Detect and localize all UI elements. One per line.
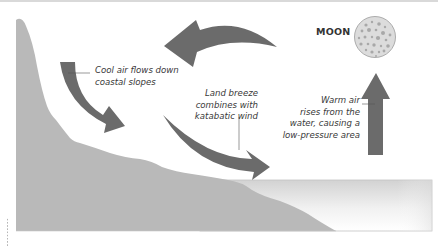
- katabatic-wind-diagram: MOON Cool air flows down coastal slopes …: [0, 0, 438, 246]
- moon-label: MOON: [316, 26, 350, 37]
- return-flow-arrow: [164, 20, 277, 67]
- warm-air-label-line-1: Warm air: [270, 95, 360, 107]
- moon-icon: [355, 17, 396, 58]
- cool-air-label-line-2: coastal slopes: [95, 77, 179, 89]
- margin-dotted-rule: [6, 218, 9, 246]
- rising-warm-air-arrow: [361, 73, 390, 155]
- warm-air-label: Warm air rises from the water, causing a…: [270, 95, 360, 141]
- warm-air-label-line-3: water, causing a: [270, 118, 360, 130]
- warm-air-label-line-4: low-pressure area: [270, 130, 360, 142]
- warm-air-label-line-2: rises from the: [270, 107, 360, 119]
- land-breeze-label: Land breeze combines with katabatic wind: [179, 88, 258, 123]
- land-breeze-label-line-2: combines with: [179, 100, 258, 112]
- diagram-artwork: [0, 0, 438, 246]
- land-breeze-label-line-3: katabatic wind: [179, 111, 258, 123]
- cool-air-label-line-1: Cool air flows down: [95, 65, 179, 77]
- land-breeze-label-line-1: Land breeze: [179, 88, 258, 100]
- land-breeze-arrow: [163, 115, 270, 180]
- cool-air-label: Cool air flows down coastal slopes: [95, 65, 179, 88]
